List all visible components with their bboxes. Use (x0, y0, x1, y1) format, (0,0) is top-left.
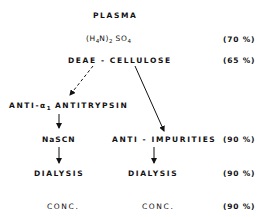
formula-sub-3: 4 (127, 38, 131, 44)
node-conc-right: CONC. (142, 203, 174, 211)
node-anti-impurities: ANTI - IMPURITIES (112, 136, 216, 144)
node-nascn: NaSCN (42, 136, 76, 144)
anti-a1-suffix: ANTITRYPSIN (51, 101, 129, 110)
formula-so: SO (113, 34, 128, 43)
yield-deae: (65 %) (223, 57, 255, 65)
dashed-arrow-deae-to-anti-a1 (70, 66, 93, 95)
yield-anti-impurities: (90 %) (223, 136, 255, 144)
arrow-deae-to-anti-impurities (135, 66, 164, 131)
anti-a1-prefix: ANTI-α (9, 101, 47, 110)
yield-conc: (90 %) (223, 203, 255, 211)
node-plasma: PLASMA (93, 12, 137, 20)
node-dialysis-left: DIALYSIS (34, 170, 84, 178)
node-anti-a1-antitrypsin: ANTI-α1 ANTITRYPSIN (9, 102, 128, 112)
yield-ammonium-sulfate: (70 %) (223, 36, 255, 44)
formula-mid: N) (99, 34, 109, 43)
node-conc-left: CONC. (47, 203, 79, 211)
node-dialysis-right: DIALYSIS (128, 170, 178, 178)
yield-dialysis: (90 %) (223, 170, 255, 178)
node-deae-cellulose: DEAE - CELLULOSE (68, 57, 172, 65)
formula-prefix: (H (86, 34, 96, 43)
node-ammonium-sulfate: (H4N)2 SO4 (86, 35, 131, 45)
